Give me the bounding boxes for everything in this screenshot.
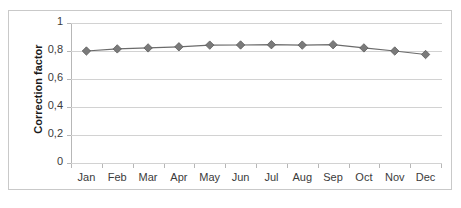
x-axis-tick-label: Feb bbox=[102, 171, 133, 183]
x-axis-tick-label: Jun bbox=[225, 171, 256, 183]
x-axis-tick-label: Oct bbox=[349, 171, 380, 183]
x-axis-tick-mark bbox=[133, 164, 134, 168]
x-axis-tick-mark bbox=[164, 164, 165, 168]
x-axis-tick-mark bbox=[287, 164, 288, 168]
x-axis-tick-label: Aug bbox=[287, 171, 318, 183]
data-point-marker bbox=[144, 44, 152, 52]
x-axis-tick-mark bbox=[194, 164, 195, 168]
y-axis-title: Correction factor bbox=[29, 9, 47, 169]
y-axis-tick-label: 0,2 bbox=[15, 127, 63, 139]
y-axis-tick-label: 0,6 bbox=[15, 71, 63, 83]
x-axis-tick-mark bbox=[441, 164, 442, 168]
x-axis-tick-label: Dec bbox=[410, 171, 441, 183]
x-axis-tick-mark bbox=[379, 164, 380, 168]
data-point-marker bbox=[206, 41, 214, 49]
y-axis-tick-label-wrap: 0,2 bbox=[9, 135, 63, 136]
y-axis-tick-label-wrap: 0,8 bbox=[9, 51, 63, 52]
chart-container: Correction factor 00,20,40,60,81 JanFebM… bbox=[8, 10, 452, 190]
x-axis-tick-label: Mar bbox=[133, 171, 164, 183]
y-axis-tick-label: 0 bbox=[15, 155, 63, 167]
data-point-marker bbox=[329, 41, 337, 49]
data-point-marker bbox=[267, 41, 275, 49]
x-axis-tick-label: Jul bbox=[256, 171, 287, 183]
x-axis-tick-label: Jan bbox=[71, 171, 102, 183]
x-axis-tick-mark bbox=[318, 164, 319, 168]
data-point-marker bbox=[391, 47, 399, 55]
data-point-marker bbox=[113, 45, 121, 53]
data-point-marker bbox=[175, 43, 183, 51]
data-point-marker bbox=[236, 41, 244, 49]
x-axis-tick-mark bbox=[71, 164, 72, 168]
y-axis-tick-label: 1 bbox=[15, 15, 63, 27]
y-axis-tick-label: 0,8 bbox=[15, 43, 63, 55]
x-axis-tick-mark bbox=[410, 164, 411, 168]
data-point-marker bbox=[298, 41, 306, 49]
data-point-marker bbox=[82, 47, 90, 55]
x-axis-tick-mark bbox=[225, 164, 226, 168]
y-axis-tick-label-wrap: 0,6 bbox=[9, 79, 63, 80]
x-axis-tick-mark bbox=[256, 164, 257, 168]
y-axis-tick-label: 0,4 bbox=[15, 99, 63, 111]
x-axis-tick-label: Nov bbox=[379, 171, 410, 183]
x-axis-tick-label: Sep bbox=[318, 171, 349, 183]
x-axis-tick-mark bbox=[349, 164, 350, 168]
x-axis-tick-label: Apr bbox=[164, 171, 195, 183]
data-point-marker bbox=[421, 50, 429, 58]
y-axis-tick-label-wrap: 0,4 bbox=[9, 107, 63, 108]
y-axis-tick-label-wrap: 0 bbox=[9, 163, 63, 164]
y-axis-tick-label-wrap: 1 bbox=[9, 23, 63, 24]
series-line-chart bbox=[71, 23, 442, 164]
data-point-marker bbox=[360, 44, 368, 52]
series-line bbox=[86, 45, 425, 55]
x-axis-tick-mark bbox=[102, 164, 103, 168]
x-axis-tick-label: May bbox=[194, 171, 225, 183]
